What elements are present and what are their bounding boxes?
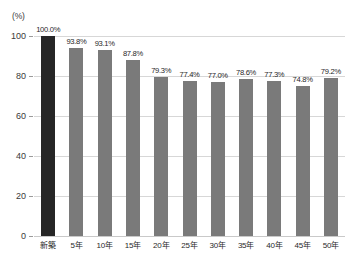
bar[interactable]: 87.8% — [126, 60, 140, 236]
bar[interactable]: 79.3% — [154, 77, 168, 236]
bar[interactable]: 74.8% — [296, 86, 310, 236]
x-axis-label: 40年 — [260, 239, 288, 250]
bar-value-label: 87.8% — [123, 49, 143, 58]
y-axis-tick-mark — [29, 76, 33, 77]
x-axis-label: 50年 — [317, 239, 345, 250]
bar-series: 100.0%93.8%93.1%87.8%79.3%77.4%77.0%78.6… — [34, 36, 345, 236]
x-axis-label: 45年 — [289, 239, 317, 250]
y-axis-tick-label: 0 — [21, 231, 26, 241]
bar[interactable]: 100.0% — [41, 36, 55, 236]
x-axis-label: 25年 — [176, 239, 204, 250]
bar-value-label: 79.3% — [151, 66, 171, 75]
y-axis-tick-mark — [29, 196, 33, 197]
bar-value-label: 78.6% — [236, 68, 256, 77]
bar[interactable]: 77.4% — [183, 81, 197, 236]
bar[interactable]: 93.1% — [98, 50, 112, 236]
bar-chart: (%) 100.0%93.8%93.1%87.8%79.3%77.4%77.0%… — [0, 0, 351, 268]
bar-value-label: 77.0% — [208, 71, 228, 80]
y-axis-tick-label: 60 — [16, 111, 26, 121]
bar-value-label: 74.8% — [293, 75, 313, 84]
y-axis-unit-label: (%) — [12, 11, 25, 21]
bar[interactable]: 93.8% — [69, 48, 83, 236]
x-axis-label: 15年 — [119, 239, 147, 250]
y-axis-tick-label: 40 — [16, 151, 26, 161]
y-axis-tick-label: 20 — [16, 191, 26, 201]
bar-slot: 79.2% — [317, 36, 345, 236]
bar-value-label: 79.2% — [321, 67, 341, 76]
x-axis-label: 10年 — [91, 239, 119, 250]
y-axis-tick-label: 80 — [16, 71, 26, 81]
x-axis-label: 20年 — [147, 239, 175, 250]
bar-slot: 93.8% — [62, 36, 90, 236]
bar-slot: 100.0% — [34, 36, 62, 236]
y-axis-tick-mark — [29, 236, 33, 237]
bar-value-label: 77.3% — [264, 70, 284, 79]
bar[interactable]: 78.6% — [239, 79, 253, 236]
bar-slot: 79.3% — [147, 36, 175, 236]
y-axis-tick-mark — [29, 116, 33, 117]
bar[interactable]: 77.3% — [267, 81, 281, 236]
y-axis-tick-mark — [29, 156, 33, 157]
bar-slot: 93.1% — [91, 36, 119, 236]
x-axis-label: 30年 — [204, 239, 232, 250]
x-axis-label: 35年 — [232, 239, 260, 250]
gridline-0 — [34, 236, 345, 237]
bar-slot: 77.0% — [204, 36, 232, 236]
y-axis-tick-mark — [29, 36, 33, 37]
plot-area: 100.0%93.8%93.1%87.8%79.3%77.4%77.0%78.6… — [34, 36, 345, 236]
x-axis-label: 5年 — [62, 239, 90, 250]
bar-value-label: 93.8% — [66, 37, 86, 46]
bar-value-label: 100.0% — [36, 25, 60, 34]
bar-slot: 77.3% — [260, 36, 288, 236]
y-axis-tick-label: 100 — [11, 31, 26, 41]
bar-value-label: 77.4% — [179, 70, 199, 79]
bar-value-label: 93.1% — [95, 39, 115, 48]
bar-slot: 77.4% — [176, 36, 204, 236]
bar-slot: 74.8% — [289, 36, 317, 236]
bar-slot: 78.6% — [232, 36, 260, 236]
x-axis-labels: 新築5年10年15年20年25年30年35年40年45年50年 — [34, 239, 345, 259]
bar[interactable]: 79.2% — [324, 78, 338, 236]
bar[interactable]: 77.0% — [211, 82, 225, 236]
x-axis-label: 新築 — [34, 239, 62, 250]
bar-slot: 87.8% — [119, 36, 147, 236]
